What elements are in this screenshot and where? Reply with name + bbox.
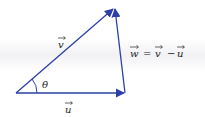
equation-equals: = <box>143 48 151 59</box>
label-v: v <box>58 37 66 51</box>
equation-u: u <box>177 46 185 60</box>
vector-w <box>115 9 125 93</box>
svg-text:v: v <box>155 48 161 59</box>
angle-arc <box>32 79 37 93</box>
svg-text:u: u <box>177 48 183 59</box>
svg-text:v: v <box>58 39 64 50</box>
equation-label: w = v − u <box>130 46 185 60</box>
svg-text:w: w <box>130 48 139 59</box>
svg-text:u: u <box>65 104 71 115</box>
equation-minus: − <box>167 48 175 59</box>
equation-v: v <box>155 46 163 60</box>
vector-diagram: v θ u w = v − u <box>0 0 205 117</box>
equation-w: w <box>130 46 139 60</box>
vector-v <box>16 9 113 93</box>
label-theta: θ <box>42 79 48 90</box>
label-u: u <box>65 102 73 116</box>
